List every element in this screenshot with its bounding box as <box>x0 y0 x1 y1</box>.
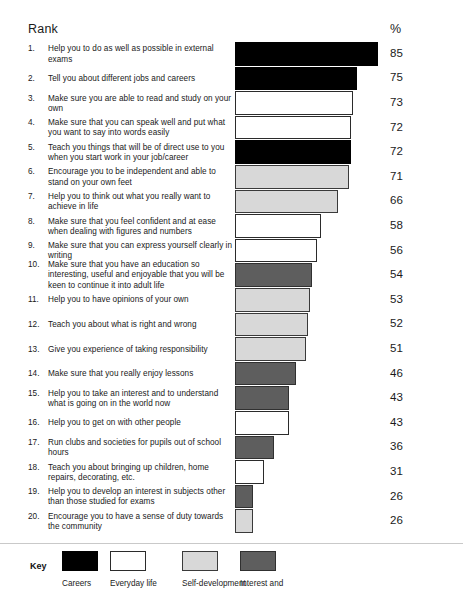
bar-rank-8 <box>235 214 321 238</box>
bar-rank-10 <box>235 263 312 287</box>
row-rank-1: 1. <box>28 44 48 54</box>
legend-item-careers: Careers <box>62 551 98 588</box>
row-percent-5: 72 <box>390 145 403 157</box>
row-text-11: Help you to have opinions of your own <box>48 295 233 305</box>
row-percent-8: 58 <box>390 219 403 231</box>
row-rank-9: 9. <box>28 241 48 251</box>
bar-rank-9 <box>235 239 317 263</box>
row-label-14: 14.Make sure that you really enjoy lesso… <box>28 369 233 379</box>
bar-rank-19 <box>235 485 253 509</box>
row-text-16: Help you to get on with other people <box>48 418 233 428</box>
row-label-15: 15.Help you to take an interest and to u… <box>28 389 233 409</box>
bar-rank-1 <box>235 42 378 66</box>
row-text-18: Teach you about bringing up children, ho… <box>48 463 233 483</box>
legend-item-selfdev: Self-development <box>182 551 246 588</box>
row-text-8: Make sure that you feel confident and at… <box>48 217 233 237</box>
row-rank-8: 8. <box>28 217 48 227</box>
row-percent-16: 43 <box>390 416 403 428</box>
row-text-6: Encourage you to be independent and able… <box>48 167 233 187</box>
row-text-9: Make sure that you can express yourself … <box>48 241 233 261</box>
row-label-18: 18.Teach you about bringing up children,… <box>28 463 233 483</box>
legend-label-interest: Interest and <box>240 579 283 588</box>
legend-swatch-everyday <box>110 551 146 571</box>
row-rank-11: 11. <box>28 295 48 305</box>
row-label-5: 5.Teach you things that will be of direc… <box>28 143 233 163</box>
row-text-5: Teach you things that will be of direct … <box>48 143 233 163</box>
row-percent-15: 43 <box>390 391 403 403</box>
row-rank-12: 12. <box>28 320 48 330</box>
bar-rank-13 <box>235 337 306 361</box>
row-percent-10: 54 <box>390 268 403 280</box>
row-label-7: 7.Help you to think out what you really … <box>28 192 233 212</box>
row-percent-6: 71 <box>390 170 403 182</box>
legend-swatch-interest <box>240 551 276 571</box>
row-text-2: Tell you about different jobs and career… <box>48 74 233 84</box>
row-label-8: 8.Make sure that you feel confident and … <box>28 217 233 237</box>
row-percent-9: 56 <box>390 244 403 256</box>
row-rank-20: 20. <box>28 512 48 522</box>
row-text-20: Encourage you to have a sense of duty to… <box>48 512 233 532</box>
row-rank-13: 13. <box>28 345 48 355</box>
row-percent-12: 52 <box>390 317 403 329</box>
legend-item-everyday: Everyday life <box>110 551 157 588</box>
row-label-16: 16.Help you to get on with other people <box>28 418 233 428</box>
row-text-15: Help you to take an interest and to unde… <box>48 389 233 409</box>
bar-rank-12 <box>235 313 308 337</box>
legend-label-everyday: Everyday life <box>110 579 157 588</box>
bar-rank-14 <box>235 362 296 386</box>
row-percent-14: 46 <box>390 367 403 379</box>
bar-rank-3 <box>235 91 353 115</box>
row-label-2: 2.Tell you about different jobs and care… <box>28 74 233 84</box>
row-label-1: 1.Help you to do as well as possible in … <box>28 44 233 64</box>
row-rank-15: 15. <box>28 389 48 399</box>
row-text-12: Teach you about what is right and wrong <box>48 320 233 330</box>
chart-page: Rank % 1.Help you to do as well as possi… <box>0 0 463 600</box>
row-percent-11: 53 <box>390 293 403 305</box>
row-percent-1: 85 <box>390 47 403 59</box>
row-text-3: Make sure you are able to read and study… <box>48 94 233 114</box>
bar-rank-15 <box>235 386 289 410</box>
row-text-14: Make sure that you really enjoy lessons <box>48 369 233 379</box>
row-rank-2: 2. <box>28 74 48 84</box>
row-rank-14: 14. <box>28 369 48 379</box>
row-rank-17: 17. <box>28 438 48 448</box>
row-rank-19: 19. <box>28 487 48 497</box>
bar-rank-4 <box>235 116 351 140</box>
row-text-1: Help you to do as well as possible in ex… <box>48 44 233 64</box>
legend: Key CareersEveryday lifeSelf-development… <box>0 543 463 600</box>
bar-rank-18 <box>235 460 264 484</box>
row-percent-13: 51 <box>390 342 403 354</box>
row-label-17: 17.Run clubs and societies for pupils ou… <box>28 438 233 458</box>
row-percent-18: 31 <box>390 465 403 477</box>
row-rank-3: 3. <box>28 94 48 104</box>
row-rank-10: 10. <box>28 260 48 270</box>
row-label-13: 13.Give you experience of taking respons… <box>28 345 233 355</box>
row-text-19: Help you to develop an interest in subje… <box>48 487 233 507</box>
row-percent-2: 75 <box>390 71 403 83</box>
row-label-11: 11.Help you to have opinions of your own <box>28 295 233 305</box>
row-percent-17: 36 <box>390 440 403 452</box>
row-text-13: Give you experience of taking responsibi… <box>48 345 233 355</box>
bar-rank-7 <box>235 190 338 214</box>
legend-item-interest: Interest and <box>240 551 283 588</box>
row-percent-19: 26 <box>390 490 403 502</box>
percent-column-header: % <box>390 22 401 36</box>
row-label-20: 20.Encourage you to have a sense of duty… <box>28 512 233 532</box>
row-rank-6: 6. <box>28 167 48 177</box>
row-percent-7: 66 <box>390 194 403 206</box>
row-label-4: 4.Make sure that you can speak well and … <box>28 118 233 138</box>
row-percent-20: 26 <box>390 514 403 526</box>
rank-column-header: Rank <box>28 22 58 36</box>
bar-rank-16 <box>235 411 289 435</box>
row-label-19: 19.Help you to develop an interest in su… <box>28 487 233 507</box>
row-label-6: 6.Encourage you to be independent and ab… <box>28 167 233 187</box>
bar-rank-20 <box>235 509 253 533</box>
row-label-10: 10.Make sure that you have an education … <box>28 260 233 291</box>
row-text-7: Help you to think out what you really wa… <box>48 192 233 212</box>
row-text-4: Make sure that you can speak well and pu… <box>48 118 233 138</box>
row-label-3: 3.Make sure you are able to read and stu… <box>28 94 233 114</box>
legend-swatch-careers <box>62 551 98 571</box>
row-text-10: Make sure that you have an education so … <box>48 260 233 291</box>
bar-rank-5 <box>235 140 351 164</box>
legend-label-careers: Careers <box>62 579 98 588</box>
